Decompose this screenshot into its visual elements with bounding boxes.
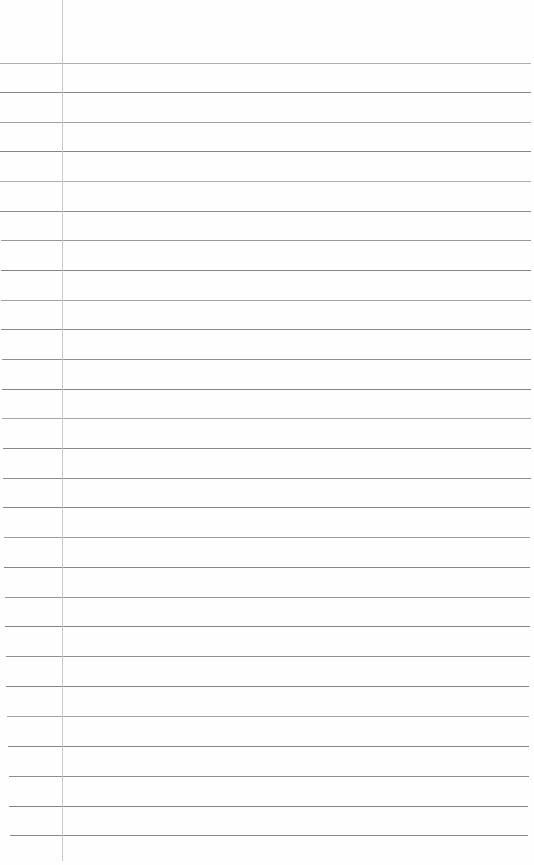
ruled-line — [8, 746, 529, 747]
ruled-line — [2, 389, 531, 390]
ruled-line — [1, 300, 531, 301]
ruled-line — [0, 151, 531, 152]
ruled-line — [2, 359, 531, 360]
ruled-line — [4, 567, 530, 568]
ruled-line — [10, 835, 528, 836]
ruled-line — [0, 92, 531, 93]
vertical-margin-rule — [62, 0, 63, 861]
paper-surface — [0, 0, 534, 865]
ruled-line — [5, 626, 530, 627]
ruled-line — [0, 211, 531, 212]
ruled-line — [0, 122, 531, 123]
ruled-line — [3, 507, 530, 508]
ruled-line — [6, 686, 529, 687]
ruled-line — [0, 181, 531, 182]
ruled-line — [3, 478, 531, 479]
ruled-line — [4, 537, 530, 538]
ruled-line — [7, 716, 529, 717]
ruled-line — [9, 806, 528, 807]
ruled-line — [2, 418, 531, 419]
ruled-line — [0, 63, 531, 64]
ruled-line — [1, 270, 531, 271]
ruled-line — [3, 448, 531, 449]
ruled-line — [9, 776, 529, 777]
ruled-line — [1, 329, 531, 330]
ruled-line — [6, 656, 530, 657]
notebook-page — [0, 0, 534, 865]
ruled-line — [5, 597, 530, 598]
ruled-line — [1, 240, 531, 241]
